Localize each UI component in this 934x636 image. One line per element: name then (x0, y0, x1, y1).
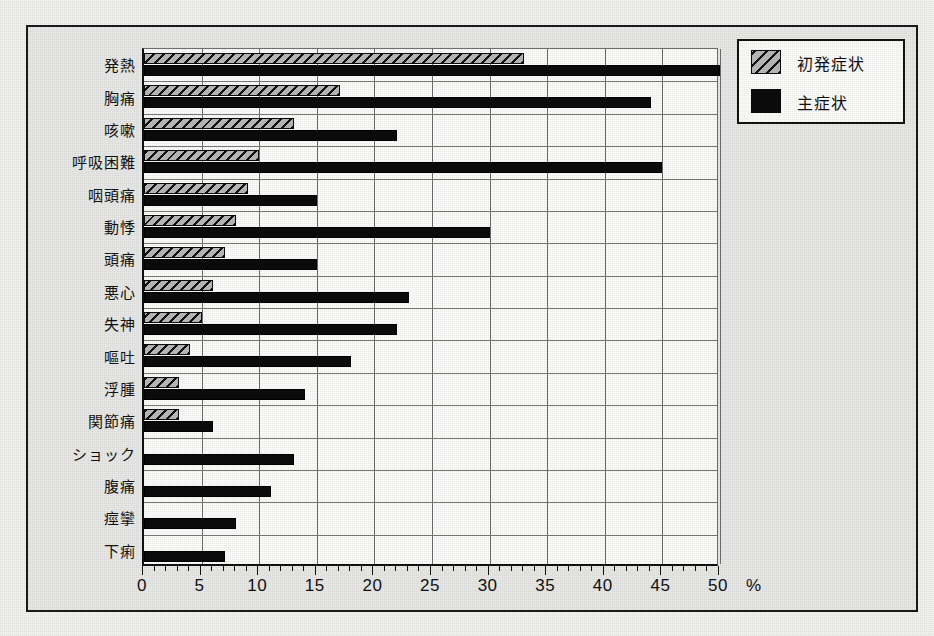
x-tick-label: 0 (137, 576, 147, 596)
bar-main-symptom (144, 259, 317, 270)
x-tick-minor (211, 566, 212, 571)
gridline-vertical (662, 49, 663, 564)
bar-main-symptom (144, 454, 294, 465)
x-tick-minor (580, 566, 581, 571)
bar-first-symptom (144, 247, 225, 258)
gridline-horizontal (144, 179, 717, 180)
bar-main-symptom (144, 421, 213, 432)
x-tick-minor (637, 566, 638, 571)
x-tick-major (430, 566, 431, 575)
plot-area (142, 48, 718, 566)
category-label: 発熱 (16, 54, 136, 75)
category-label: 悪心 (16, 281, 136, 302)
x-tick-label: 25 (420, 576, 440, 596)
bar-first-symptom (144, 215, 236, 226)
x-tick-minor (349, 566, 350, 571)
x-tick-label: 30 (478, 576, 498, 596)
gridline-horizontal (144, 438, 717, 439)
category-label: 頭痛 (16, 248, 136, 269)
x-tick-minor (384, 566, 385, 571)
legend-item-main-symptom: 主症状 (751, 86, 897, 116)
gridline-vertical (605, 49, 606, 564)
x-tick-major (718, 566, 719, 575)
gridline-horizontal (144, 81, 717, 82)
x-tick-label: 35 (535, 576, 555, 596)
x-tick-minor (326, 566, 327, 571)
gridline-horizontal (144, 373, 717, 374)
category-label: ショック (16, 443, 136, 464)
gridline-vertical (547, 49, 548, 564)
bar-first-symptom (144, 183, 248, 194)
gridline-horizontal (144, 502, 717, 503)
legend-label-main-symptom: 主症状 (797, 90, 848, 114)
x-tick-label: 10 (247, 576, 267, 596)
x-tick-major (488, 566, 489, 575)
gridline-horizontal (144, 470, 717, 471)
category-label: 咽頭痛 (16, 184, 136, 205)
x-tick-label: 20 (362, 576, 382, 596)
x-tick-minor (695, 566, 696, 571)
category-label: 下痢 (16, 540, 136, 561)
x-tick-minor (234, 566, 235, 571)
x-tick-major (603, 566, 604, 575)
x-tick-minor (338, 566, 339, 571)
bar-main-symptom (144, 324, 397, 335)
x-tick-minor (626, 566, 627, 571)
gridline-horizontal (144, 340, 717, 341)
gridline-horizontal (144, 211, 717, 212)
gridline-horizontal (144, 405, 717, 406)
x-tick-label: 15 (305, 576, 325, 596)
x-tick-minor (557, 566, 558, 571)
chart-legend: 初発症状 主症状 (737, 39, 905, 124)
x-tick-minor (361, 566, 362, 571)
bar-main-symptom (144, 195, 317, 206)
bar-first-symptom (144, 118, 294, 129)
bar-main-symptom (144, 97, 651, 108)
bar-first-symptom (144, 85, 340, 96)
x-tick-minor (683, 566, 684, 571)
x-tick-major (142, 566, 143, 575)
x-tick-minor (672, 566, 673, 571)
category-label: 動悸 (16, 216, 136, 237)
x-tick-minor (154, 566, 155, 571)
gridline-horizontal (144, 243, 717, 244)
bar-main-symptom (144, 551, 225, 562)
bar-main-symptom (144, 292, 409, 303)
x-tick-minor (292, 566, 293, 571)
x-tick-minor (269, 566, 270, 571)
gridline-horizontal (144, 308, 717, 309)
category-label: 胸痛 (16, 87, 136, 108)
x-tick-minor (614, 566, 615, 571)
gridline-vertical (490, 49, 491, 564)
x-tick-minor (303, 566, 304, 571)
x-tick-minor (649, 566, 650, 571)
bar-main-symptom (144, 227, 490, 238)
category-label: 腹痛 (16, 475, 136, 496)
chart-figure: 発熱胸痛咳嗽呼吸困難咽頭痛動悸頭痛悪心失神嘔吐浮腫関節痛ショック腹痛痙攣下痢 %… (0, 0, 934, 636)
x-tick-minor (223, 566, 224, 571)
bar-main-symptom (144, 518, 236, 529)
gridline-vertical (374, 49, 375, 564)
category-label: 痙攣 (16, 507, 136, 528)
x-tick-major (257, 566, 258, 575)
legend-item-first-symptom: 初発症状 (751, 47, 897, 77)
x-tick-major (372, 566, 373, 575)
gridline-vertical (720, 49, 721, 564)
x-tick-label: 40 (593, 576, 613, 596)
bar-main-symptom (144, 356, 351, 367)
x-tick-label: 45 (650, 576, 670, 596)
x-tick-minor (442, 566, 443, 571)
x-tick-major (200, 566, 201, 575)
x-tick-minor (407, 566, 408, 571)
gridline-vertical (317, 49, 318, 564)
bar-first-symptom (144, 280, 213, 291)
bar-first-symptom (144, 409, 179, 420)
gridline-horizontal (144, 276, 717, 277)
bar-first-symptom (144, 53, 524, 64)
category-label: 呼吸困難 (16, 151, 136, 172)
category-label: 嘔吐 (16, 346, 136, 367)
bar-first-symptom (144, 377, 179, 388)
category-label: 関節痛 (16, 410, 136, 431)
x-tick-minor (568, 566, 569, 571)
bar-main-symptom (144, 486, 271, 497)
